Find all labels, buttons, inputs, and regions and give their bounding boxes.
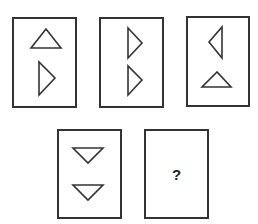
triangle-right-icon xyxy=(39,62,55,95)
triangle-right-icon xyxy=(128,28,142,58)
panel-1 xyxy=(13,18,76,107)
triangle-down-icon xyxy=(73,185,103,200)
triangle-right-icon xyxy=(128,66,142,95)
panel-4-frame xyxy=(58,130,121,218)
panel-3 xyxy=(187,17,249,106)
triangle-down-icon xyxy=(73,148,103,163)
panel-3-frame xyxy=(187,17,249,106)
panel-4 xyxy=(58,130,121,218)
triangle-up-icon xyxy=(31,29,61,48)
puzzle-figure xyxy=(0,0,258,224)
triangle-up-icon xyxy=(202,72,231,87)
triangle-left-icon xyxy=(209,27,222,58)
puzzle-stage: ? xyxy=(0,0,258,224)
panel-2 xyxy=(100,18,163,107)
answer-placeholder: ? xyxy=(145,130,208,218)
